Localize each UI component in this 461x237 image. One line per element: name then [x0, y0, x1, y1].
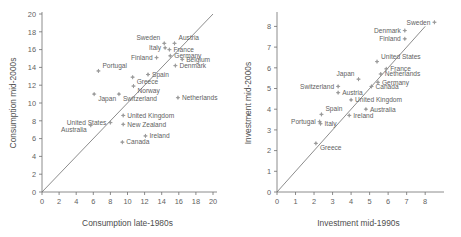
identity-reference-line: [277, 26, 425, 192]
y-axis-title: Investment mid-2000s: [243, 62, 253, 144]
point-label: Switzerland: [123, 95, 157, 102]
point-label: Australia: [61, 126, 87, 133]
data-point: United Kingdom: [121, 112, 174, 120]
x-tick-label: 16: [175, 197, 183, 206]
x-tick-label: 2: [57, 197, 61, 206]
point-marker: [174, 64, 176, 66]
x-tick-label: 6: [91, 197, 95, 206]
data-point: New Zealand: [121, 121, 166, 128]
point-label: Finland: [379, 35, 401, 42]
point-label: Netherlands: [182, 94, 218, 101]
data-point: Finland: [131, 54, 159, 61]
y-tick-label: 16: [28, 45, 36, 54]
x-tick-label: 18: [192, 197, 200, 206]
y-tick-label: 12: [28, 81, 36, 90]
data-point: Denmark: [374, 27, 407, 34]
point-marker: [97, 70, 99, 72]
data-point: Canada: [120, 138, 149, 145]
data-point: Japan: [92, 92, 116, 103]
y-tick-label: 0: [267, 188, 271, 197]
point-marker: [109, 121, 111, 123]
point-label: Norway: [137, 87, 160, 95]
y-axis-title: Consumption mid-2000s: [8, 58, 18, 149]
point-marker: [177, 97, 179, 99]
point-label: United States: [381, 53, 421, 60]
point-label: United Kingdom: [127, 112, 174, 120]
investment-scatter-panel: 012345678012345678Investment mid-1990sIn…: [231, 0, 461, 237]
point-marker: [122, 114, 124, 116]
y-tick-label: 8: [32, 117, 36, 126]
data-point: Netherlands: [176, 94, 218, 101]
point-label: Japan: [98, 95, 116, 103]
point-marker: [132, 85, 134, 87]
point-marker: [118, 93, 120, 95]
point-label: Denmark: [179, 62, 206, 69]
x-axis-title: Consumption late-1980s: [82, 218, 173, 228]
point-marker: [404, 29, 406, 31]
y-tick-label: 6: [267, 64, 271, 73]
point-marker: [404, 38, 406, 40]
point-marker: [337, 92, 339, 94]
point-marker: [131, 76, 133, 78]
point-label: Canada: [126, 138, 149, 145]
point-label: Switzerland: [300, 83, 334, 90]
x-tick-label: 2: [312, 197, 316, 206]
data-point: Switzerland: [300, 83, 340, 90]
x-tick-label: 8: [423, 197, 427, 206]
point-marker: [320, 113, 322, 115]
x-tick-label: 8: [108, 197, 112, 206]
x-tick-label: 4: [349, 197, 353, 206]
x-tick-label: 14: [158, 197, 166, 206]
point-marker: [348, 114, 350, 116]
x-tick-label: 4: [74, 197, 78, 206]
data-point: Finland: [379, 35, 407, 42]
x-tick-label: 6: [386, 197, 390, 206]
point-label: United Kingdom: [355, 96, 402, 104]
point-marker: [144, 135, 146, 137]
point-marker: [122, 123, 124, 125]
data-point: Austria: [336, 89, 363, 96]
point-marker: [181, 58, 183, 60]
point-marker: [315, 142, 317, 144]
point-label: Portugal: [102, 62, 127, 70]
data-point: Austria: [173, 34, 200, 45]
x-tick-label: 0: [40, 197, 44, 206]
point-label: Spain: [325, 105, 342, 113]
y-tick-label: 8: [267, 22, 271, 31]
point-marker: [380, 73, 382, 75]
consumption-scatter-panel: 0246810121416182002468101214161820Consum…: [0, 0, 231, 237]
point-marker: [173, 42, 175, 44]
data-point: United States: [375, 53, 421, 64]
data-point: Japan: [337, 70, 361, 81]
y-tick-label: 1: [267, 167, 271, 176]
point-marker: [365, 108, 367, 110]
point-label: Netherlands: [385, 70, 421, 77]
data-point: Norway: [131, 84, 160, 95]
x-tick-label: 3: [331, 197, 335, 206]
point-marker: [350, 99, 352, 101]
y-tick-label: 4: [32, 152, 36, 161]
x-tick-label: 7: [405, 197, 409, 206]
y-tick-label: 3: [267, 126, 271, 135]
data-point: Netherlands: [379, 70, 421, 77]
y-tick-label: 4: [267, 105, 271, 114]
point-marker: [163, 42, 165, 44]
point-marker: [90, 124, 92, 126]
point-marker: [121, 141, 123, 143]
x-tick-label: 0: [275, 197, 279, 206]
investment-scatter-svg: 012345678012345678Investment mid-1990sIn…: [231, 0, 461, 237]
y-tick-label: 18: [28, 28, 36, 37]
point-label: Ireland: [149, 132, 169, 139]
point-marker: [376, 60, 378, 62]
y-tick-label: 7: [267, 43, 271, 52]
point-marker: [370, 85, 372, 87]
x-axis-title: Investment mid-1990s: [317, 218, 399, 228]
y-tick-label: 2: [32, 170, 36, 179]
y-tick-label: 20: [28, 10, 36, 19]
point-label: Austria: [179, 34, 200, 41]
data-point: Portugal: [96, 62, 127, 73]
point-label: United States: [67, 119, 107, 126]
point-label: Greece: [320, 144, 342, 151]
point-label: Finland: [131, 54, 153, 61]
point-marker: [155, 56, 157, 58]
